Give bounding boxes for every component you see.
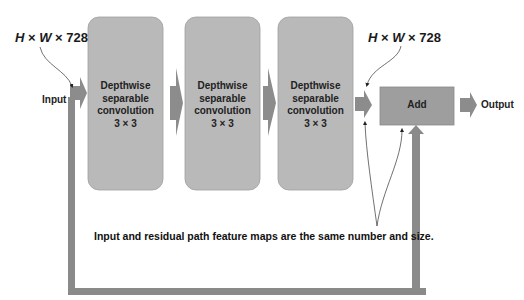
output-dimension-label: H × W × 728 bbox=[368, 30, 441, 45]
input-dimension-label: H × W × 728 bbox=[15, 30, 88, 45]
block-line: separable bbox=[185, 93, 260, 106]
block-line: convolution bbox=[278, 105, 353, 118]
note-pointer-left bbox=[365, 123, 377, 226]
block-line: 3 × 3 bbox=[278, 118, 353, 131]
add-label: Add bbox=[380, 99, 454, 110]
diagram-shapes bbox=[0, 0, 524, 300]
block-1-label: Depthwise separable convolution 3 × 3 bbox=[88, 80, 163, 130]
dim-times: × bbox=[405, 30, 420, 45]
dim-c: 728 bbox=[419, 30, 441, 45]
dim-h: H bbox=[368, 30, 377, 45]
residual-block-diagram: H × W × 728 H × W × 728 Input Output Dep… bbox=[0, 0, 524, 300]
dim-w: W bbox=[392, 30, 404, 45]
dim-c: 728 bbox=[66, 30, 88, 45]
note-pointer-right bbox=[377, 130, 402, 226]
block-line: convolution bbox=[88, 105, 163, 118]
block-line: convolution bbox=[185, 105, 260, 118]
block-line: 3 × 3 bbox=[185, 118, 260, 131]
block-2-label: Depthwise separable convolution 3 × 3 bbox=[185, 80, 260, 130]
block-3-label: Depthwise separable convolution 3 × 3 bbox=[278, 80, 353, 130]
block-line: separable bbox=[278, 93, 353, 106]
dim-times: × bbox=[24, 30, 39, 45]
annotation-note: Input and residual path feature maps are… bbox=[94, 230, 434, 242]
input-label: Input bbox=[42, 94, 66, 105]
block-line: Depthwise bbox=[278, 80, 353, 93]
block-line: 3 × 3 bbox=[88, 118, 163, 131]
output-dim-pointer bbox=[367, 46, 401, 85]
output-label: Output bbox=[481, 99, 514, 110]
block-line: Depthwise bbox=[185, 80, 260, 93]
block-line: separable bbox=[88, 93, 163, 106]
output-arrow bbox=[460, 92, 477, 118]
input-dim-pointer bbox=[40, 47, 72, 86]
arrow-to-add bbox=[355, 90, 372, 118]
dim-h: H bbox=[15, 30, 24, 45]
block-line: Depthwise bbox=[88, 80, 163, 93]
dim-times: × bbox=[52, 30, 67, 45]
arrow-1-2 bbox=[170, 68, 183, 136]
dim-w: W bbox=[39, 30, 51, 45]
arrow-2-3 bbox=[263, 68, 276, 136]
dim-times: × bbox=[377, 30, 392, 45]
